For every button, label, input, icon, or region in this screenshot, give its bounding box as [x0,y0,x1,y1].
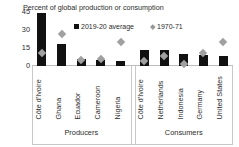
category-label-cell: Ghana [52,66,72,120]
chart-container: Percent of global production or consumpt… [0,0,239,147]
scatter-marker [219,38,227,46]
category-label-cell: Indonesia [174,66,194,120]
category-label-cell: Netherlands [154,66,174,120]
bar [57,44,66,66]
x-axis-tick-label: Côte d'Ivoire [137,79,144,119]
x-axis-tick-label: United States [216,76,223,119]
bar [219,56,228,66]
y-axis-tick-label: 0 [26,62,30,69]
y-axis: 4530150 [11,12,30,66]
x-axis-tick-label: Nigeria [113,96,120,119]
x-axis-tick-label: Netherlands [157,80,164,119]
axis-bottom-rule [32,144,233,145]
x-axis-tick-label: Germany [196,89,203,119]
plot-area [32,12,233,66]
group-label: Producers [32,120,131,145]
category-label-cell: Germany [194,66,214,120]
y-axis-tick-label: 45 [22,8,30,15]
category-label-cell: Côte d'Ivoire [32,66,52,120]
x-axis-tick-label: Côte d'Ivoire [34,79,41,119]
category-label-cell: Côte d'Ivoire [135,66,155,120]
bar [37,13,46,66]
category-label-cell: United States [213,66,233,120]
x-axis-tick-label: Ecuador [74,92,81,119]
y-axis-tick-label: 15 [22,44,30,51]
x-axis-tick-label: Ghana [54,97,61,119]
category-label-cell: Cameroon [91,66,111,120]
y-axis-tick-label: 30 [22,26,30,33]
category-labels: Côte d'IvoireGhanaEcuadorCameroonNigeria… [32,66,233,120]
scatter-marker [57,29,65,37]
group-label: Consumers [135,120,234,145]
x-axis-tick-label: Cameroon [94,85,101,119]
category-label-cell: Nigeria [111,66,131,120]
bar [199,55,208,66]
scatter-marker [116,38,124,46]
group-labels: ProducersConsumers [32,120,233,145]
x-axis-tick-label: Indonesia [176,88,183,119]
chart-title: Percent of global production or consumpt… [23,3,164,12]
category-label-cell: Ecuador [71,66,91,120]
